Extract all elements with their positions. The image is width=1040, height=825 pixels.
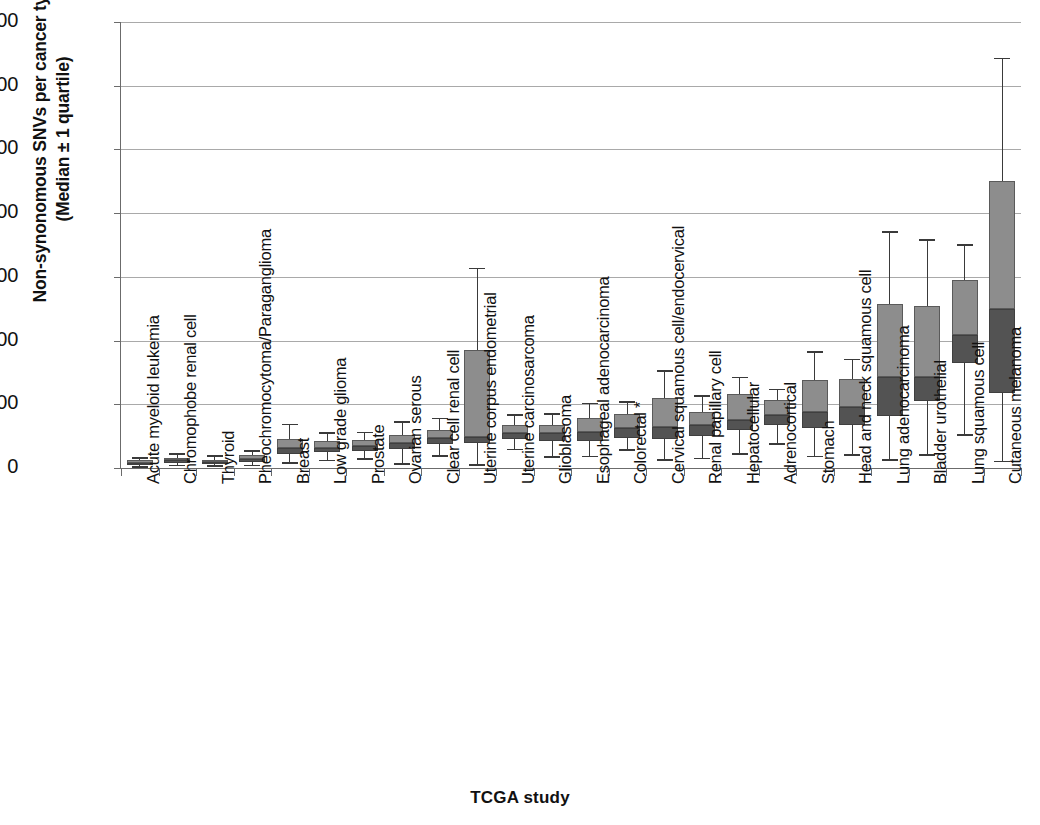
x-category-label: Cervical squamous cell/endocervical — [670, 226, 687, 484]
box-plot-item[interactable] — [196, 22, 234, 468]
whisker-lower — [852, 425, 853, 456]
x-category-label: Clear cell renal cell — [445, 350, 462, 484]
x-category-label: Breast — [295, 438, 312, 484]
y-tick-label: 300 — [0, 264, 18, 287]
whisker-upper — [739, 378, 740, 395]
x-category-label: Head and neck squamous cell — [857, 270, 874, 484]
x-category-label: Acute myeloid leukemia — [145, 315, 162, 484]
y-tick-mark — [114, 277, 121, 278]
whisker-upper — [289, 425, 290, 439]
whisker-lower — [1002, 393, 1003, 462]
whisker-lower — [627, 438, 628, 450]
whisker-upper — [927, 240, 928, 306]
x-category-label: Prostate — [370, 425, 387, 484]
whisker-cap-upper — [732, 377, 748, 379]
whisker-lower — [777, 425, 778, 444]
x-category-label: Uterine carcinosarcoma — [520, 315, 537, 484]
boxplot-figure: Non-synonomous SNVs per cancer type (Med… — [0, 0, 1040, 825]
x-category-label: Hepatocellular — [745, 382, 762, 484]
whisker-lower — [739, 430, 740, 454]
y-axis-title: Non-synonomous SNVs per cancer type (Med… — [29, 0, 75, 359]
x-category-label: Glioblasoma — [557, 395, 574, 484]
x-category-label: Lung squamous cell — [970, 342, 987, 484]
y-tick-label: 200 — [0, 328, 18, 351]
y-tick-label: 100 — [0, 391, 18, 414]
whisker-lower — [889, 416, 890, 460]
y-tick-mark — [114, 22, 121, 23]
y-tick-label: 600 — [0, 73, 18, 96]
box-plot-item[interactable] — [271, 22, 309, 468]
x-category-label: Pheochromocytoma/Paraganglioma — [257, 229, 274, 484]
box-upper-quartile — [802, 380, 828, 412]
y-tick-label: 400 — [0, 200, 18, 223]
whisker-cap-upper — [919, 239, 935, 241]
y-tick-mark — [114, 149, 121, 150]
box-plot-item[interactable] — [796, 22, 834, 468]
x-category-label: Adrenocortical — [782, 382, 799, 484]
whisker-upper — [852, 360, 853, 380]
whisker-lower — [552, 441, 553, 458]
whisker-lower — [664, 439, 665, 459]
whisker-cap-upper — [957, 244, 973, 246]
x-category-label: Cutaneous melanoma — [1007, 327, 1024, 484]
x-axis-title: TCGA study — [0, 788, 1040, 808]
whisker-lower — [702, 436, 703, 458]
x-category-label: Ovarian serous — [407, 376, 424, 484]
whisker-cap-upper — [882, 231, 898, 233]
x-category-label: Low grade glioma — [332, 358, 349, 484]
y-tick-mark — [114, 341, 121, 342]
box-upper-quartile — [952, 280, 978, 335]
whisker-upper — [402, 422, 403, 435]
whisker-cap-upper — [807, 351, 823, 353]
box-upper-quartile — [989, 181, 1015, 308]
whisker-upper — [439, 418, 440, 429]
x-category-label: Bladder urothelial — [932, 360, 949, 484]
whisker-lower — [964, 363, 965, 435]
y-tick-label: 700 — [0, 9, 18, 32]
x-category-label: Lung adenocarcinoma — [895, 325, 912, 484]
whisker-upper — [552, 414, 553, 425]
whisker-lower — [589, 441, 590, 456]
whisker-upper — [627, 402, 628, 414]
x-category-label: Renal papillary cell — [707, 351, 724, 485]
whisker-upper — [1002, 58, 1003, 181]
whisker-upper — [589, 404, 590, 418]
whisker-lower — [814, 428, 815, 456]
whisker-cap-upper — [282, 424, 298, 426]
x-category-label: Colorectal * — [632, 402, 649, 484]
x-category-label: Thyroid — [220, 431, 237, 484]
whisker-upper — [889, 232, 890, 304]
y-tick-label: 0 — [0, 455, 18, 478]
whisker-upper — [777, 390, 778, 401]
x-category-label: Chromophobe renal cell — [182, 314, 199, 484]
y-tick-label: 500 — [0, 136, 18, 159]
whisker-lower — [477, 443, 478, 465]
box-plot-item[interactable] — [346, 22, 384, 468]
whisker-upper — [702, 396, 703, 412]
y-tick-mark — [114, 468, 121, 469]
whisker-upper — [814, 352, 815, 380]
whisker-upper — [477, 269, 478, 351]
whisker-upper — [514, 415, 515, 425]
whisker-upper — [964, 245, 965, 280]
x-tick-mark — [121, 468, 122, 476]
whisker-cap-upper — [469, 268, 485, 270]
whisker-lower — [402, 449, 403, 464]
y-tick-mark — [114, 213, 121, 214]
whisker-upper — [327, 433, 328, 441]
whisker-upper — [664, 371, 665, 398]
whisker-cap-upper — [994, 58, 1010, 60]
x-category-label: Uterine corpus endometrial — [482, 292, 499, 484]
whisker-lower — [439, 444, 440, 456]
whisker-lower — [927, 401, 928, 455]
y-tick-mark — [114, 86, 121, 87]
x-category-label: Esophageal adenocarcinoma — [595, 277, 612, 485]
y-tick-mark — [114, 404, 121, 405]
x-category-label: Stomach — [820, 421, 837, 484]
whisker-upper — [364, 432, 365, 440]
